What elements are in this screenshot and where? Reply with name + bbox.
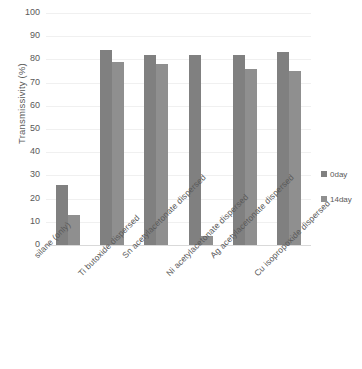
x-axis-labels: silane (only)Ti butoxide dispersedSn ace… [0, 245, 362, 369]
y-axis-tick-label: 10 [10, 216, 40, 226]
legend-swatch-icon [321, 196, 327, 202]
bar-group [100, 13, 124, 245]
y-axis-tick-label: 100 [10, 7, 40, 17]
legend-swatch-icon [321, 171, 327, 177]
legend: 0day14day [321, 170, 362, 220]
bar [68, 215, 80, 245]
bar-groups [46, 13, 311, 245]
y-axis-tick-label: 20 [10, 193, 40, 203]
bar-group [277, 13, 301, 245]
y-axis-tick-label: 60 [10, 100, 40, 110]
bar-group [189, 13, 213, 245]
y-axis-tick-label: 30 [10, 169, 40, 179]
y-axis-tick-label: 50 [10, 123, 40, 133]
legend-label: 0day [330, 170, 356, 179]
plot-area [46, 13, 311, 245]
legend-item[interactable]: 0day [321, 170, 362, 179]
bar [100, 50, 112, 245]
y-axis-tick-label: 40 [10, 146, 40, 156]
y-axis-tick-label: 70 [10, 77, 40, 87]
y-axis-tick-label: 80 [10, 53, 40, 63]
legend-item[interactable]: 14day [321, 195, 362, 204]
bar-chart: Transmissivity (%) 100908070605040302010… [0, 0, 362, 369]
y-axis-tick-label: 90 [10, 30, 40, 40]
legend-label: 14day [330, 195, 356, 204]
bar-group [56, 13, 80, 245]
bar [189, 55, 201, 245]
bar [289, 71, 301, 245]
bar [277, 52, 289, 245]
bar [112, 62, 124, 245]
